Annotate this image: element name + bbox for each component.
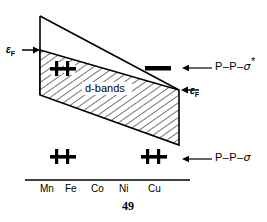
fermi-subscript-left: F [11, 50, 15, 57]
sigma-star-prefix: P–P– [215, 60, 244, 72]
axis-label-mn: Mn [40, 184, 54, 194]
d-band-hatched-region [30, 40, 195, 160]
electron-pair-sigma-right-icon [141, 149, 167, 164]
sigma-label: P–P–σ [215, 152, 251, 163]
fermi-subscript-right: F [195, 91, 199, 98]
sigma-star-asterisk: * [251, 55, 256, 67]
sigma-symbol: σ [244, 151, 251, 164]
axis-label-cu: Cu [148, 184, 161, 194]
axis-label-co: Co [91, 184, 104, 194]
fermi-left-arrow-icon [22, 47, 40, 54]
d-bands-label: d-bands [85, 83, 125, 94]
sigma-prefix: P–P– [215, 151, 244, 163]
sigma-star-label: P–P–σ* [215, 61, 256, 72]
fermi-level-label-left: εF [6, 45, 15, 57]
page-number: 49 [122, 200, 134, 212]
axis-label-fe: Fe [65, 184, 77, 194]
sigma-star-symbol: σ [244, 60, 251, 73]
axis-label-ni: Ni [119, 184, 128, 194]
sigma-pointer-arrow-icon [182, 156, 212, 162]
electron-pair-sigma-left-icon [50, 149, 76, 164]
fermi-level-label-right: εF [190, 86, 199, 98]
sigma-star-level-bar [145, 66, 171, 71]
sigma-star-pointer-arrow-icon [182, 65, 212, 71]
band-diagram-figure: εF εF d-bands P–P–σ* P–P–σ Mn Fe Co Ni C… [0, 0, 267, 222]
